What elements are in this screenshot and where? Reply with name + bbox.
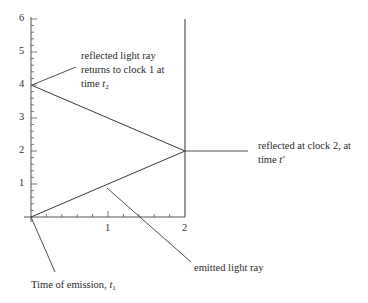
emitted-light-ray [31,151,185,217]
y-tick-label: 2 [19,144,24,156]
reflect-annotation: reflected at clock 2, at time t′ [258,139,351,167]
y-tick-label: 5 [19,45,24,57]
emission-annotation: Time of emission, t1 [31,278,116,295]
x-tick-label: 1 [105,222,110,234]
return-annotation: reflected light ray returns to clock 1 a… [81,49,164,94]
emitted-annotation: emitted light ray [194,261,263,275]
return-annotation-line1: reflected light ray [81,49,164,63]
return-annotation-line2: returns to clock 1 at [81,63,164,77]
y-axis-ticks [31,19,37,210]
x-tick-label: 2 [182,222,187,234]
return-leader-line [32,67,76,85]
y-tick-label: 6 [19,12,24,24]
emitted-leader-line [107,188,191,262]
return-annotation-line3: time t2 [81,77,164,94]
reflect-annotation-line2: time t′ [258,153,351,167]
y-tick-label: 1 [19,177,24,189]
y-tick-label: 3 [19,111,24,123]
reflect-annotation-line1: reflected at clock 2, at [258,139,351,153]
y-tick-label: 4 [19,78,24,90]
emission-leader-line [31,217,55,272]
x-axis-ticks [46,211,169,217]
reflected-light-ray [31,85,185,151]
